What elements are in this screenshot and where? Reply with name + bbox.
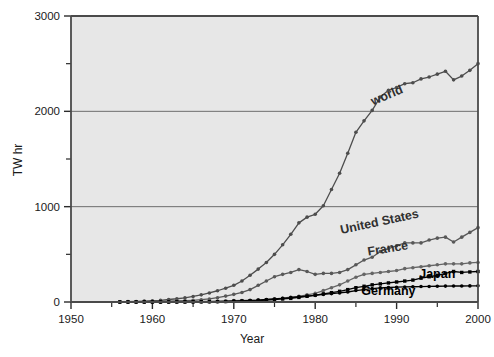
- x-axis-title: Year: [240, 332, 264, 346]
- nuclear-generation-line-chart: 0100020003000195019601970198019902000 wo…: [0, 0, 494, 357]
- y-tick-label: 0: [54, 296, 60, 308]
- x-tick-label: 2000: [465, 313, 491, 325]
- x-tick-label: 1970: [221, 313, 247, 325]
- x-tick-label: 1950: [58, 313, 84, 325]
- x-tick-label: 1960: [140, 313, 166, 325]
- y-tick-label: 1000: [34, 201, 60, 213]
- annotation-japan: Japan: [419, 267, 455, 281]
- x-tick-label: 1990: [384, 313, 410, 325]
- y-tick-label: 2000: [34, 105, 60, 117]
- y-tick-label: 3000: [34, 10, 60, 22]
- x-tick-label: 1980: [302, 313, 328, 325]
- chart-figure: 0100020003000195019601970198019902000 wo…: [0, 0, 494, 357]
- y-axis-title: TW hr: [11, 144, 25, 177]
- annotation-germany: Germany: [361, 284, 415, 298]
- plot-area-background: [71, 16, 478, 302]
